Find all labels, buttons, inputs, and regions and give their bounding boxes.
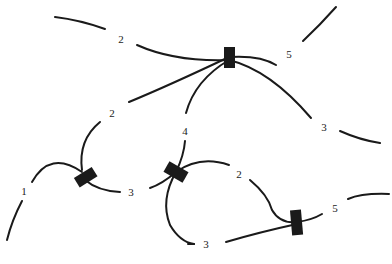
edge-junction-to-5: [229, 57, 276, 65]
label-top-3: 3: [321, 122, 327, 133]
edge-center-down: [166, 172, 194, 244]
label-mid-2: 2: [109, 108, 115, 119]
edge-top-2-to-junction: [137, 45, 229, 60]
edge-junction-to-left3: [85, 180, 120, 192]
edge-junction-to-3: [229, 60, 311, 118]
label-mid-4: 4: [182, 126, 188, 137]
edge-top-left-upper: [55, 17, 105, 29]
label-bottom-3: 3: [203, 239, 209, 250]
label-center-2: 2: [236, 169, 242, 180]
edge-mid2-down: [81, 122, 100, 170]
junction-top: [224, 47, 235, 68]
diagram-lines: [0, 0, 392, 264]
label-right-5: 5: [332, 203, 338, 214]
edge-5-upper: [303, 7, 336, 41]
edge-1-to-junction: [32, 163, 82, 182]
label-left-3: 3: [128, 187, 134, 198]
edge-bottom3-to-right: [226, 224, 297, 242]
edge-3-right: [340, 131, 380, 143]
diagram-canvas: 2 5 3 2 4 1 3 2 5 3: [0, 0, 392, 264]
junction-right: [290, 210, 303, 236]
label-left-1: 1: [21, 186, 27, 197]
edge-mid2-to-junction: [129, 57, 229, 102]
edge-2-to-right-junction: [250, 180, 297, 222]
edge-5-right: [348, 194, 389, 199]
label-top-2: 2: [118, 34, 124, 45]
edge-1-lower: [7, 201, 22, 240]
label-top-5: 5: [286, 49, 292, 60]
